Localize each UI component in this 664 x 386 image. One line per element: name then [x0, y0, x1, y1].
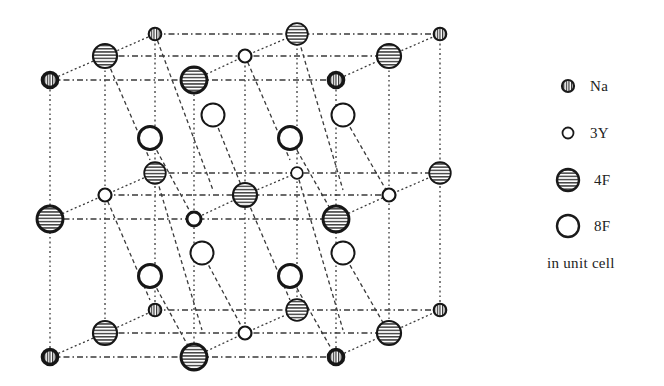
na-atom-icon: [328, 72, 343, 87]
4f-atom-icon: [286, 23, 308, 45]
4f-atom-icon: [93, 44, 117, 68]
legend-label-4f: 4F: [594, 172, 610, 189]
lattice-line: [202, 253, 245, 333]
4f-atom-icon: [233, 183, 257, 207]
legend-label-8f: 8F: [594, 218, 610, 235]
8f-atom-icon: [202, 104, 225, 127]
4f-atom-icon: [144, 162, 166, 184]
4f-atom-icon: [93, 321, 117, 345]
8f-atom-icon: [139, 127, 162, 150]
na-atom-icon: [149, 28, 162, 41]
8f-atom-icon: [191, 242, 214, 265]
4f-atom-icon: [37, 206, 63, 232]
8f-atom-icon: [332, 242, 355, 265]
4f-atom-icon: [181, 344, 207, 370]
3y-atom-icon: [239, 50, 252, 63]
8f-atom-icon: [279, 265, 302, 288]
3y-atom-icon: [99, 189, 112, 202]
8f-atom-icon: [139, 265, 162, 288]
3y-atom-icon: [239, 327, 252, 340]
legend: Na 3Y 4F 8F: [536, 0, 664, 386]
na-icon: [558, 76, 578, 96]
na-atom-icon: [434, 304, 447, 317]
na-atom-icon: [149, 304, 162, 317]
4f-atom-icon: [323, 206, 349, 232]
legend-item-4f: 4F: [554, 166, 610, 194]
3y-atom-icon: [383, 189, 396, 202]
8f-atom-icon: [332, 104, 355, 127]
4f-icon: [554, 166, 582, 194]
4f-atom-icon: [377, 321, 401, 345]
na-atom-icon: [42, 72, 57, 87]
lattice-line: [343, 115, 389, 195]
8f-icon: [554, 212, 582, 240]
3y-atom-icon: [291, 167, 303, 179]
4f-atom-icon: [181, 67, 207, 93]
lattice-line: [343, 253, 389, 333]
na-atom-icon: [328, 349, 343, 364]
3y-icon: [558, 123, 578, 143]
legend-item-3y: 3Y: [558, 123, 609, 143]
3y-atom-icon: [187, 212, 201, 226]
4f-atom-icon: [286, 299, 308, 321]
legend-caption: in unit cell: [547, 255, 615, 272]
legend-label-na: Na: [590, 78, 608, 95]
legend-label-3y: 3Y: [590, 125, 609, 142]
legend-item-8f: 8F: [554, 212, 610, 240]
na-atom-icon: [434, 28, 447, 41]
na-atom-icon: [42, 349, 57, 364]
4f-atom-icon: [377, 44, 401, 68]
crystal-structure-diagram: [0, 0, 540, 386]
8f-atom-icon: [279, 127, 302, 150]
legend-item-na: Na: [558, 76, 608, 96]
4f-atom-icon: [429, 162, 451, 184]
